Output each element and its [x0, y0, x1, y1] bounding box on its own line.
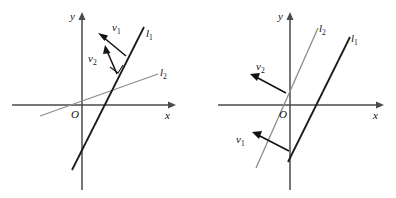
vector-v1-arrowhead: [252, 131, 262, 139]
vector-v2-arrowhead: [103, 45, 111, 54]
x-axis-label: x: [372, 109, 378, 121]
x-axis-arrowhead: [376, 102, 384, 109]
vector-v2-shaft: [107, 51, 117, 74]
figure-container: x y O l1 l2 v1 v2: [0, 0, 396, 198]
line-l2: [256, 28, 318, 168]
y-axis-arrowhead: [287, 12, 294, 20]
y-axis-label: y: [277, 10, 283, 22]
vector-v2-label: v2: [88, 52, 97, 67]
origin-label: O: [279, 108, 287, 120]
line-l1-label: l1: [351, 32, 358, 47]
line-l2-label: l2: [319, 22, 326, 37]
left-diagram: x y O l1 l2 v1 v2: [12, 10, 176, 190]
line-l1-label: l1: [146, 27, 153, 42]
vector-v1-label: v1: [236, 133, 245, 148]
vector-v2-shaft: [256, 77, 286, 93]
vector-v2-arrowhead: [250, 73, 260, 81]
line-l2-label: l2: [160, 66, 167, 81]
x-axis-arrowhead: [168, 102, 176, 109]
line-l1: [72, 27, 144, 170]
vector-v1-label: v1: [112, 21, 121, 36]
origin-label: O: [71, 108, 79, 120]
vector-v2-label: v2: [256, 60, 265, 75]
vector-v1-shaft: [258, 135, 289, 151]
y-axis-arrowhead: [79, 12, 86, 20]
x-axis-label: x: [164, 109, 170, 121]
line-l1: [288, 37, 350, 162]
y-axis-label: y: [69, 10, 75, 22]
right-diagram: x y O l2 l1 v2 v1: [218, 10, 384, 190]
line-l2: [40, 74, 158, 116]
